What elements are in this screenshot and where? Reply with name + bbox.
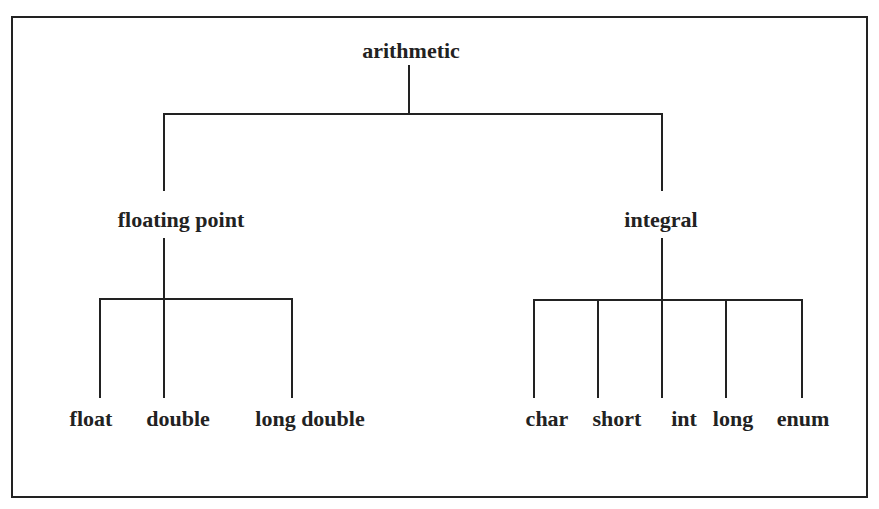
node-long: long	[713, 408, 753, 430]
node-enum: enum	[777, 408, 830, 430]
node-arithmetic: arithmetic	[362, 40, 460, 62]
node-char: char	[526, 408, 569, 430]
node-float: float	[70, 408, 113, 430]
node-int: int	[671, 408, 697, 430]
node-long-double: long double	[255, 408, 364, 430]
node-double: double	[146, 408, 210, 430]
tree-connectors	[0, 0, 879, 509]
node-floating-point: floating point	[118, 209, 245, 231]
node-short: short	[593, 408, 642, 430]
node-integral: integral	[624, 209, 697, 231]
